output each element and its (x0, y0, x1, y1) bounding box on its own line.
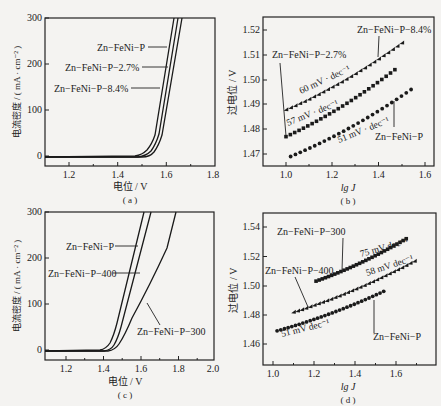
y-tick-label: 1.47 (243, 148, 261, 159)
data-point (316, 92, 321, 96)
x-tick-label: 1.4 (372, 169, 385, 180)
plot-frame (45, 212, 214, 360)
data-point (384, 74, 388, 78)
data-point (310, 122, 314, 126)
data-point (321, 90, 326, 94)
y-tick-label: 1.46 (243, 338, 261, 349)
data-point (348, 266, 352, 270)
x-axis-label: 电位 / V (108, 375, 144, 387)
data-point (379, 275, 384, 279)
data-point (313, 144, 317, 148)
curve-zn-fenip (45, 212, 144, 351)
data-point (358, 285, 363, 289)
x-tick-label: 1.2 (326, 169, 339, 180)
x-tick-label: 1.8 (172, 363, 185, 374)
data-point (324, 276, 328, 280)
data-point (345, 290, 350, 294)
data-point (297, 129, 301, 133)
data-point (376, 81, 380, 85)
data-point (337, 293, 342, 297)
y-tick-label: 1.50 (243, 74, 261, 85)
data-point (390, 47, 395, 51)
data-point (327, 312, 331, 316)
series-label: Zn−FeNi−P−8.4% (54, 83, 128, 94)
x-tick-label: 1.8 (207, 169, 220, 180)
data-point (386, 50, 391, 54)
data-point (380, 107, 384, 111)
data-point (363, 90, 367, 94)
data-point (342, 268, 346, 272)
data-point (339, 79, 344, 83)
x-tick-label: 1.0 (267, 368, 280, 379)
data-point (320, 300, 325, 304)
y-tick-label: 1.52 (243, 24, 261, 35)
data-point (395, 44, 400, 48)
data-point (330, 311, 334, 315)
data-point (303, 148, 307, 152)
data-points (275, 237, 417, 333)
data-point (376, 56, 381, 60)
figure: 0 100 200 300 1.2 1.4 1.6 1.8 电位 / V ( a… (0, 0, 441, 406)
x-axis-label: lg J (341, 381, 356, 392)
data-point (300, 307, 305, 311)
data-point (315, 119, 319, 123)
data-point (302, 126, 306, 130)
y-tick-label: 300 (27, 12, 42, 23)
data-point (389, 71, 393, 75)
plot-frame (263, 17, 434, 166)
data-point (364, 259, 368, 263)
y-axis-label: 电流密度 / ( mA · cm⁻² ) (11, 240, 22, 332)
data-point (329, 297, 334, 301)
data-point (349, 74, 354, 78)
data-point (318, 142, 322, 146)
data-point (381, 53, 386, 57)
data-point (298, 101, 303, 105)
panel-b: 1.52 1.51 1.50 1.49 1.48 1.47 1.0 1.2 1.… (226, 17, 434, 206)
data-point (341, 292, 346, 296)
data-point (319, 117, 323, 121)
x-tick-label: 1.6 (160, 169, 173, 180)
data-point (350, 99, 354, 103)
data-point (327, 137, 331, 141)
data-point (372, 60, 377, 64)
data-point (362, 65, 367, 69)
y-tick-label: 1.50 (243, 280, 261, 291)
data-point (291, 310, 296, 314)
data-point (323, 115, 327, 119)
data-point (383, 273, 388, 277)
data-point (293, 103, 298, 107)
y-tick-label: 300 (27, 206, 42, 217)
data-point (354, 287, 359, 291)
data-point (363, 298, 367, 302)
data-point (404, 91, 408, 95)
data-point (409, 88, 413, 92)
data-point (356, 301, 360, 305)
data-point (350, 288, 355, 292)
panel-caption: ( a ) (123, 195, 138, 205)
data-point (375, 277, 380, 281)
y-tick-label: 1.51 (243, 49, 261, 60)
data-point (390, 101, 394, 105)
series-label: Zn−FeNi−P (66, 241, 114, 252)
y-tick-label: 1.48 (243, 309, 261, 320)
x-axis-label: lg J (341, 182, 356, 193)
panel-caption: ( d ) (341, 395, 356, 405)
series-label: Zn−FeNi−P−8.4% (357, 24, 431, 35)
data-point (307, 97, 312, 101)
data-point (335, 82, 340, 86)
panel-caption: ( b ) (341, 196, 356, 206)
data-point (360, 299, 364, 303)
y-axis-label: 过电位 / V (227, 267, 239, 313)
data-point (325, 298, 330, 302)
series-label: Zn−FeNi−P (373, 331, 421, 342)
data-point (354, 96, 358, 100)
y-tick-label: 1.52 (243, 251, 261, 262)
x-tick-label: 1.4 (111, 169, 124, 180)
data-point (371, 113, 375, 117)
panel-a: 0 100 200 300 1.2 1.4 1.6 1.8 电位 / V ( a… (11, 12, 219, 205)
x-tick-label: 1.6 (390, 368, 403, 379)
data-point (295, 308, 300, 312)
x-tick-label: 1.2 (60, 363, 73, 374)
data-point (289, 133, 293, 137)
data-point (288, 105, 293, 109)
